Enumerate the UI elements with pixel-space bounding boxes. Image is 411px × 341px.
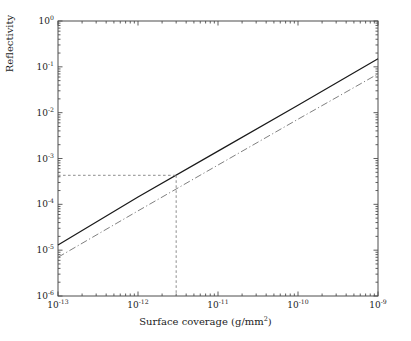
- x-tick-label: 10-9: [369, 300, 386, 310]
- y-tick-label: 10-5: [37, 245, 54, 255]
- data-series: [58, 59, 378, 258]
- reflectivity-chart-figure: 10-1310-1210-1110-1010-9 10010-110-210-3…: [0, 0, 411, 341]
- y-tick-label: 10-1: [37, 62, 54, 72]
- plot-canvas: [0, 0, 411, 341]
- y-tick-label: 100: [39, 16, 54, 26]
- x-axis-label: Surface coverage (g/mm2): [0, 316, 411, 327]
- axis-ticks: [58, 21, 378, 296]
- y-tick-label: 10-2: [37, 108, 54, 118]
- y-tick-label: 10-6: [37, 291, 54, 301]
- axes-frame: [58, 21, 378, 296]
- y-axis-label: Reflectivity: [4, 0, 18, 181]
- y-tick-label: 10-3: [37, 154, 54, 164]
- x-tick-label: 10-10: [287, 300, 308, 310]
- guide-lines: [58, 175, 176, 296]
- x-tick-label: 10-12: [127, 300, 148, 310]
- x-tick-label: 10-13: [47, 300, 68, 310]
- y-tick-label: 10-4: [37, 199, 54, 209]
- x-tick-label: 10-11: [207, 300, 228, 310]
